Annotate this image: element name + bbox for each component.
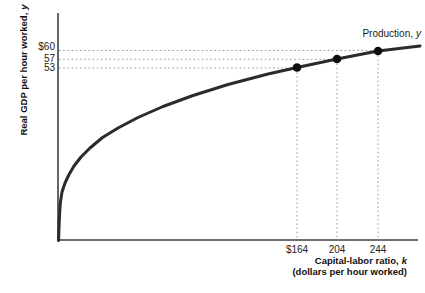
x-axis-title-block: Capital-labor ratio,k (dollars per hour …: [292, 255, 407, 277]
x-tick-164: $164: [277, 244, 317, 255]
curve-label-var: y: [416, 28, 421, 39]
data-point-164-53: [293, 63, 302, 72]
y-axis-title-var: y: [18, 4, 30, 9]
x-axis-title-text: Capital-labor ratio,: [315, 255, 399, 266]
curve-label-text: Production,: [362, 28, 413, 39]
x-tick-204: 204: [317, 244, 357, 255]
production-function-figure: $60 57 53 $164 204 244 Real GDP per hour…: [0, 0, 425, 293]
production-curve: [59, 46, 420, 241]
x-axis-subtitle: (dollars per hour worked): [292, 266, 407, 277]
data-point-244-60: [374, 47, 383, 56]
curve-label: Production,y: [362, 28, 421, 40]
y-axis-title: Real GDP per hour worked,y: [18, 0, 30, 140]
x-axis-title-var: k: [402, 255, 407, 266]
x-tick-244: 244: [358, 244, 398, 255]
x-axis-title: Capital-labor ratio,k: [292, 255, 407, 266]
data-point-204-57: [333, 55, 342, 64]
y-axis-title-text: Real GDP per hour worked,: [18, 13, 30, 136]
